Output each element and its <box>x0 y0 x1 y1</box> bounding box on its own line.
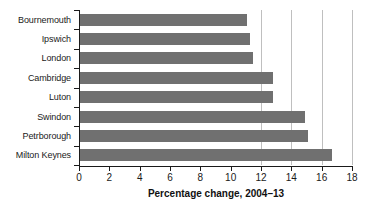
bar-luton <box>79 91 273 103</box>
y-axis-line <box>79 10 80 166</box>
x-axis-tick-12 <box>261 166 262 171</box>
y-axis-label-2: London <box>0 49 76 68</box>
y-axis-label-0: Bournemouth <box>0 10 76 29</box>
x-axis-tick-0 <box>79 166 80 171</box>
bar-chart: Bournemouth Ipswich London Cambridge Lut… <box>0 0 376 211</box>
x-axis-tick-16 <box>322 166 323 171</box>
y-axis-tick <box>74 107 79 108</box>
x-axis-ticks <box>79 166 353 171</box>
x-axis-tick-14 <box>291 166 292 171</box>
x-axis-tick-18 <box>352 166 353 171</box>
bar-series <box>79 10 352 165</box>
x-axis-tick-8 <box>200 166 201 171</box>
bar-row <box>79 10 352 29</box>
y-axis-label-6: Petrborough <box>0 126 76 145</box>
x-axis-tick-4 <box>140 166 141 171</box>
y-axis-tick <box>74 29 79 30</box>
bar-row <box>79 126 352 145</box>
bar-cambridge <box>79 72 273 84</box>
y-axis-label-1: Ipswich <box>0 29 76 48</box>
bar-row <box>79 49 352 68</box>
x-axis-tick-label-8: 8 <box>198 172 204 183</box>
y-axis-tick <box>74 49 79 50</box>
x-axis-tick-label-10: 10 <box>225 172 236 183</box>
bar-row <box>79 107 352 126</box>
x-axis-title: Percentage change, 2004–13 <box>79 188 353 199</box>
x-axis-tick-10 <box>231 166 232 171</box>
bar-petrborough <box>79 130 308 142</box>
x-axis-tick-labels: 024681012141618 <box>79 172 353 185</box>
bar-row <box>79 88 352 107</box>
bar-london <box>79 52 253 64</box>
y-axis-label-5: Swindon <box>0 107 76 126</box>
x-axis-tick-label-6: 6 <box>167 172 173 183</box>
y-axis-tick <box>74 10 79 11</box>
gridline-18 <box>352 10 353 165</box>
y-axis-label-4: Luton <box>0 88 76 107</box>
x-axis-tick-label-14: 14 <box>286 172 297 183</box>
bar-swindon <box>79 111 305 123</box>
bar-ipswich <box>79 33 250 45</box>
x-axis-tick-label-0: 0 <box>76 172 82 183</box>
y-axis-tick <box>74 126 79 127</box>
y-axis-label-3: Cambridge <box>0 68 76 87</box>
y-axis-tick <box>74 88 79 89</box>
x-axis-tick-label-4: 4 <box>137 172 143 183</box>
y-axis-ticks <box>74 10 79 165</box>
x-axis-tick-label-16: 16 <box>316 172 327 183</box>
x-axis-tick-2 <box>109 166 110 171</box>
y-axis-tick <box>74 146 79 147</box>
plot-area <box>79 10 352 165</box>
bar-milton-keynes <box>79 149 332 161</box>
bar-row <box>79 68 352 87</box>
y-axis-label-7: Milton Keynes <box>0 146 76 165</box>
bar-row <box>79 146 352 165</box>
x-axis-tick-label-18: 18 <box>346 172 357 183</box>
y-axis-category-labels: Bournemouth Ipswich London Cambridge Lut… <box>0 10 76 165</box>
x-axis-tick-label-2: 2 <box>107 172 113 183</box>
x-axis-tick-6 <box>170 166 171 171</box>
x-axis-tick-label-12: 12 <box>255 172 266 183</box>
bar-row <box>79 29 352 48</box>
y-axis-tick <box>74 68 79 69</box>
bar-bournemouth <box>79 14 247 26</box>
